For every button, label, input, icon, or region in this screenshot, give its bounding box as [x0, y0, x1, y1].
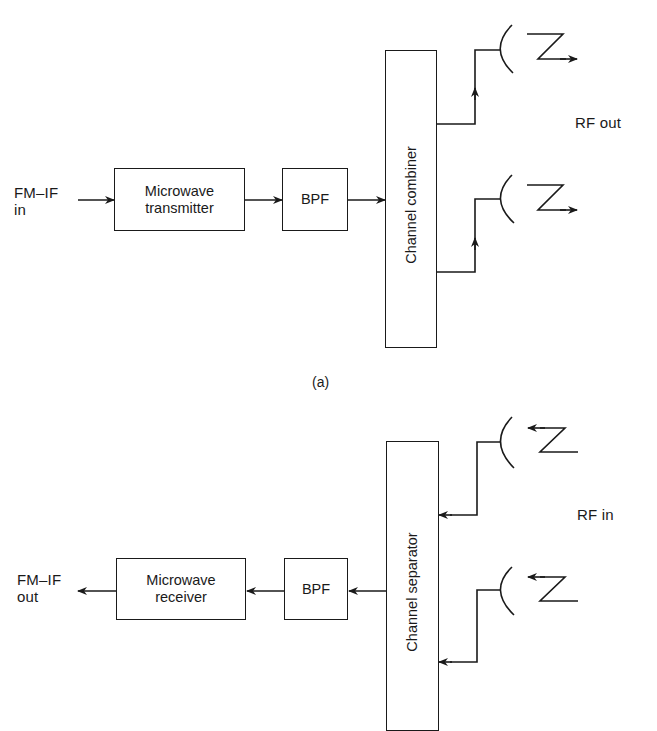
bpf-block-rx: BPF: [284, 558, 348, 620]
fmif-in-label-line2: in: [14, 201, 58, 218]
bpf-label-rx: BPF: [302, 581, 330, 598]
line-antenna-3-to-separator: [450, 442, 501, 515]
fmif-out-label: FM–IF out: [17, 571, 61, 605]
dish-antenna-2: [500, 175, 514, 223]
channel-combiner-label: Channel combiner: [403, 146, 419, 264]
fmif-in-label-line1: FM–IF: [14, 184, 58, 201]
rf-out-label: RF out: [575, 114, 621, 131]
radiation-symbol-1: [527, 34, 566, 59]
transmitter-label-line2: transmitter: [145, 200, 214, 217]
receiver-label-line1: Microwave: [146, 572, 215, 589]
bpf-label-tx: BPF: [301, 191, 329, 208]
line-combiner-to-antenna-1: [436, 50, 501, 124]
dish-antenna-1: [500, 25, 513, 73]
bpf-block-tx: BPF: [282, 168, 348, 231]
microwave-receiver-block: Microwave receiver: [116, 558, 246, 620]
line-combiner-to-antenna-2: [436, 199, 501, 272]
channel-separator-label: Channel separator: [404, 532, 420, 651]
fmif-in-label: FM–IF in: [14, 184, 58, 218]
fmif-out-label-line2: out: [17, 588, 61, 605]
radiation-symbol-3: [540, 428, 578, 452]
dish-antenna-3: [500, 417, 514, 468]
line-antenna-4-to-separator: [450, 590, 501, 662]
dish-antenna-4: [500, 567, 514, 615]
transmitter-label-line1: Microwave: [145, 183, 214, 200]
fmif-out-label-line1: FM–IF: [17, 571, 61, 588]
microwave-transmitter-block: Microwave transmitter: [114, 168, 245, 231]
radiation-symbol-4: [540, 577, 578, 601]
rf-in-label: RF in: [577, 506, 614, 523]
radiation-symbol-2: [527, 185, 566, 210]
receiver-label-line2: receiver: [146, 589, 215, 606]
figure-caption-a: (a): [312, 374, 329, 390]
